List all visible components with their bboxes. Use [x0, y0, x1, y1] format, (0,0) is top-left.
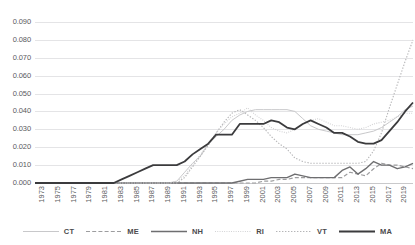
chart-legend: CTMENHRIVTMA — [0, 222, 415, 240]
x-axis-tick-label: 2013 — [353, 186, 361, 203]
legend-label: RI — [256, 227, 264, 236]
legend-item-ma[interactable]: MA — [339, 227, 392, 236]
x-axis-tick-label: 2011 — [337, 186, 345, 202]
series-line-ma — [35, 103, 413, 184]
legend-swatch-ct-icon — [23, 227, 59, 236]
x-axis-tick-label: 2019 — [400, 186, 408, 203]
legend-label: ME — [127, 227, 139, 236]
y-axis-tick-label: 0.020 — [13, 143, 31, 151]
legend-item-vt[interactable]: VT — [276, 227, 327, 236]
x-axis-tick-label: 1999 — [243, 186, 251, 203]
y-axis-tick-label: 0.050 — [13, 90, 31, 98]
series-line-ct — [35, 106, 413, 183]
x-axis-tick-label: 2017 — [385, 186, 393, 203]
x-axis-tick-label: 2001 — [259, 186, 267, 203]
legend-swatch-vt-icon — [276, 227, 312, 236]
x-axis-tick-label: 1985 — [133, 186, 141, 203]
x-axis-tick-label: 1995 — [211, 186, 219, 203]
x-axis-tick-label: 1997 — [227, 186, 235, 203]
x-axis: 1973197519771979198119831985198719891991… — [35, 182, 413, 222]
legend-swatch-nh-icon — [151, 227, 187, 236]
y-axis-tick-label: 0.040 — [13, 107, 31, 115]
y-axis-tick-label: 0.070 — [13, 54, 31, 62]
legend-label: VT — [317, 227, 327, 236]
legend-item-me[interactable]: ME — [86, 227, 139, 236]
plot-area — [35, 0, 413, 196]
series-lines — [35, 0, 413, 196]
legend-item-ri[interactable]: RI — [215, 227, 264, 236]
legend-label: MA — [380, 227, 392, 236]
x-axis-tick-label: 2007 — [306, 186, 314, 203]
x-axis-tick-label: 2005 — [290, 186, 298, 203]
x-axis-tick-label: 1993 — [196, 186, 204, 203]
legend-swatch-ma-icon — [339, 227, 375, 236]
x-axis-tick-label: 2003 — [274, 186, 282, 203]
y-axis-tick-label: 0.090 — [13, 18, 31, 26]
y-axis-tick-label: 0.080 — [13, 36, 31, 44]
x-axis-tick-label: 1975 — [54, 186, 62, 203]
x-axis-tick-label: 2009 — [322, 186, 330, 203]
x-axis-tick-label: 2015 — [369, 186, 377, 203]
y-axis-tick-label: 0.010 — [13, 161, 31, 169]
legend-label: CT — [64, 227, 74, 236]
y-axis-tick-label: 0.000 — [13, 179, 31, 187]
x-axis-tick-label: 1983 — [117, 186, 125, 203]
x-axis-tick-label: 1987 — [148, 186, 156, 203]
legend-label: NH — [192, 227, 203, 236]
plot-wrapper: 0.0000.0100.0200.0300.0400.0500.0600.070… — [0, 0, 415, 196]
y-axis-tick-label: 0.030 — [13, 125, 31, 133]
legend-swatch-ri-icon — [215, 227, 251, 236]
series-line-nh — [35, 162, 413, 183]
y-axis-tick-label: 0.060 — [13, 72, 31, 80]
legend-item-nh[interactable]: NH — [151, 227, 203, 236]
x-axis-tick-label: 1991 — [180, 186, 188, 203]
x-axis-tick-label: 1981 — [101, 186, 109, 203]
series-line-vt — [35, 40, 413, 183]
legend-swatch-me-icon — [86, 227, 122, 236]
x-axis-tick-label: 1973 — [38, 186, 46, 203]
y-axis: 0.0000.0100.0200.0300.0400.0500.0600.070… — [0, 0, 33, 196]
line-chart: 0.0000.0100.0200.0300.0400.0500.0600.070… — [0, 0, 415, 245]
legend-item-ct[interactable]: CT — [23, 227, 74, 236]
x-axis-tick-label: 1977 — [70, 186, 78, 203]
x-axis-tick-label: 1989 — [164, 186, 172, 203]
x-axis-tick-label: 1979 — [85, 186, 93, 203]
